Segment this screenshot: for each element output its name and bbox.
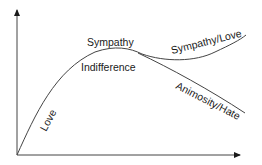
- label-sympathy-love: Sympathy/Love: [170, 27, 243, 56]
- label-sympathy: Sympathy: [87, 36, 134, 48]
- label-love: Love: [37, 107, 58, 133]
- label-indifference: Indifference: [81, 61, 136, 73]
- label-animosity-hate: Animosity/Hate: [174, 79, 243, 122]
- diagram-canvas: Love Sympathy Indifference Sympathy/Love…: [0, 0, 262, 165]
